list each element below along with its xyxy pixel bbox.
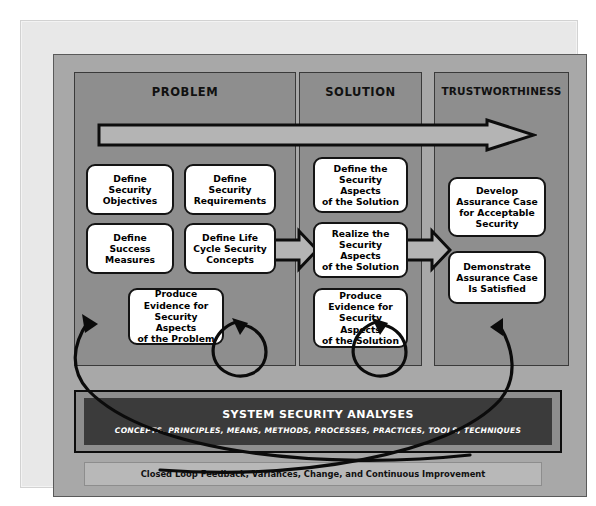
top-flow-arrow-icon — [97, 118, 537, 152]
node-label: Define the Security Aspects of the Solut… — [318, 163, 403, 208]
node-label: Produce Evidence for Security Aspects of… — [133, 288, 219, 344]
node-demonstrate-assurance-case[interactable]: Demonstrate Assurance Case Is Satisfied — [448, 251, 546, 304]
node-define-life-cycle-security-concepts[interactable]: Define Life Cycle Security Concepts — [184, 223, 276, 274]
node-label: Define Life Cycle Security Concepts — [193, 232, 267, 266]
node-label: Develop Assurance Case for Acceptable Se… — [456, 185, 537, 230]
diagram-canvas: PROBLEM SOLUTION TRUSTWORTHINESS Define … — [53, 54, 587, 497]
node-define-security-requirements[interactable]: Define Security Requirements — [184, 164, 276, 215]
closed-loop-feedback-bar: Closed Loop Feedback, Variances, Change,… — [84, 462, 542, 486]
node-realize-aspects-of-solution[interactable]: Realize the Security Aspects of the Solu… — [313, 222, 408, 278]
node-define-aspects-of-solution[interactable]: Define the Security Aspects of the Solut… — [313, 157, 408, 213]
node-label: Define Security Requirements — [194, 173, 267, 207]
analyses-title: SYSTEM SECURITY ANALYSES — [222, 408, 414, 421]
node-produce-evidence-problem[interactable]: Produce Evidence for Security Aspects of… — [128, 288, 224, 345]
arrow-solution-to-trustworthiness-icon — [404, 227, 452, 273]
column-trustworthiness-title: TRUSTWORTHINESS — [435, 85, 568, 97]
node-label: Realize the Security Aspects of the Solu… — [318, 228, 403, 273]
node-define-security-objectives[interactable]: Define Security Objectives — [86, 164, 174, 215]
system-security-analyses-bar: SYSTEM SECURITY ANALYSES CONCEPTS, PRINC… — [84, 398, 552, 445]
column-solution-title: SOLUTION — [300, 85, 421, 99]
outer-frame: PROBLEM SOLUTION TRUSTWORTHINESS Define … — [20, 20, 578, 488]
node-produce-evidence-solution[interactable]: Produce Evidence for Security Aspects of… — [313, 288, 408, 348]
node-label: Define Success Measures — [105, 232, 155, 266]
node-develop-assurance-case[interactable]: Develop Assurance Case for Acceptable Se… — [448, 177, 546, 237]
node-define-success-measures[interactable]: Define Success Measures — [86, 223, 174, 274]
arrow-problem-to-solution-icon — [271, 227, 319, 273]
column-problem-title: PROBLEM — [75, 85, 295, 99]
diagram-page: PROBLEM SOLUTION TRUSTWORTHINESS Define … — [0, 0, 596, 506]
analyses-subtitle: CONCEPTS, PRINCIPLES, MEANS, METHODS, PR… — [115, 426, 521, 435]
node-label: Define Security Objectives — [103, 173, 157, 207]
node-label: Produce Evidence for Security Aspects of… — [318, 290, 403, 346]
feedback-label: Closed Loop Feedback, Variances, Change,… — [141, 469, 486, 479]
node-label: Demonstrate Assurance Case Is Satisfied — [456, 261, 537, 295]
